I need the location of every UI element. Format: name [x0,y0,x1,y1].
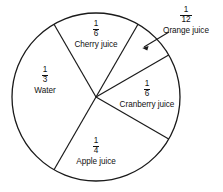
pie-chart: 1 6 Cherry juice 1 12 Orange juice 1 6 C… [0,0,223,192]
slice-name-apple-juice: Apple juice [60,158,132,167]
fraction-denominator: 6 [144,90,151,98]
fraction-numerator: 1 [42,66,49,74]
fraction-denominator: 3 [42,76,49,84]
slice-name-cranberry-juice: Cranberry juice [108,101,186,110]
slice-name-water: Water [15,87,75,96]
slice-name-cherry-juice: Cherry juice [60,41,132,50]
fraction-denominator: 6 [93,30,100,38]
fraction-numerator: 1 [144,80,151,88]
slice-label-orange-juice: 1 12 Orange juice [150,6,222,36]
fraction-numerator: 1 [93,20,100,28]
slice-fraction-cherry-juice: 1 6 [93,20,100,38]
slice-fraction-water: 1 3 [42,66,49,84]
fraction-numerator: 1 [180,6,191,14]
slice-label-apple-juice: 1 4 Apple juice [60,137,132,167]
fraction-numerator: 1 [93,137,100,145]
slice-fraction-orange-juice: 1 12 [180,6,191,24]
fraction-denominator: 12 [180,16,191,24]
slice-fraction-cranberry-juice: 1 6 [144,80,151,98]
slice-label-cranberry-juice: 1 6 Cranberry juice [108,80,186,110]
slice-name-orange-juice: Orange juice [150,27,222,36]
slice-label-cherry-juice: 1 6 Cherry juice [60,20,132,50]
slice-fraction-apple-juice: 1 4 [93,137,100,155]
fraction-denominator: 4 [93,147,100,155]
slice-label-water: 1 3 Water [15,66,75,96]
